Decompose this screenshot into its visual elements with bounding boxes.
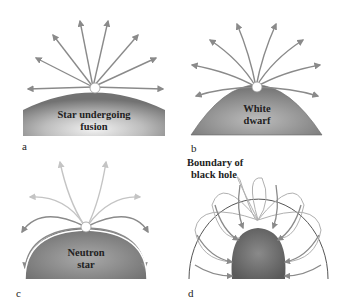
- panel-b-letter: b: [191, 142, 197, 154]
- panel-b-label-1: White: [243, 103, 271, 114]
- light-paths-diagram: Star undergoing fusion a White dwarf b: [0, 0, 345, 303]
- emission-point: [90, 83, 100, 93]
- panel-a: Star undergoing fusion a: [22, 21, 165, 152]
- panel-c: Neutron star c: [16, 162, 148, 299]
- panel-d-label-1: Boundary of: [187, 157, 244, 168]
- panel-b-label-2: dwarf: [244, 115, 271, 126]
- panel-b: White dwarf b: [191, 24, 322, 154]
- panel-a-letter: a: [22, 140, 27, 152]
- panel-a-label-1: Star undergoing: [57, 109, 131, 120]
- emission-point: [252, 82, 262, 92]
- panel-d-label-2: black hole: [191, 169, 237, 180]
- panel-c-letter: c: [16, 287, 21, 299]
- black-hole-body: [232, 228, 286, 279]
- panel-a-label-2: fusion: [80, 121, 108, 132]
- panel-d-letter: d: [188, 287, 194, 299]
- light-ray-arrows: [28, 21, 163, 89]
- panel-c-label-1: Neutron: [67, 247, 104, 258]
- panel-c-label-2: star: [77, 259, 95, 270]
- faint-light-ray-arrows: [30, 162, 140, 225]
- panel-d: Boundary of black hole d: [187, 157, 328, 299]
- emission-point: [81, 222, 91, 232]
